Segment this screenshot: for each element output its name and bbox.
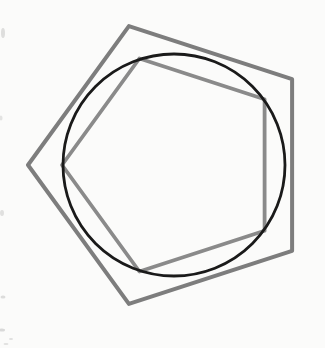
- circle: [63, 54, 285, 276]
- scan-speckle: [0, 210, 4, 216]
- scan-speckle: [4, 343, 9, 345]
- scan-speckle: [9, 338, 13, 340]
- scan-speckle: [1, 296, 6, 299]
- geometry-figure: [0, 0, 325, 348]
- outer-pentagon: [28, 26, 292, 304]
- scan-speckle: [1, 28, 5, 38]
- scanned-page: [0, 0, 325, 348]
- scan-speckle: [0, 329, 5, 332]
- scan-speckle: [0, 116, 3, 121]
